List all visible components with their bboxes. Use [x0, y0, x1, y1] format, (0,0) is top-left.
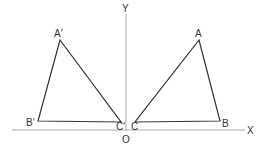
vertex-label-a-prime: A′ [54, 28, 63, 39]
y-axis-label: Y [122, 3, 129, 14]
vertex-label-c: C [131, 121, 138, 132]
vertex-label-b: B [222, 118, 229, 129]
reflected-triangle [38, 40, 121, 122]
reflection-diagram: Y X O A′ B′ C′ A B C [0, 0, 264, 145]
vertex-label-b-prime: B′ [26, 117, 35, 128]
original-triangle [135, 40, 220, 122]
vertex-label-c-prime: C′ [116, 121, 125, 132]
x-axis-label: X [247, 125, 254, 136]
vertex-label-a: A [195, 28, 202, 39]
origin-label: O [122, 134, 130, 145]
